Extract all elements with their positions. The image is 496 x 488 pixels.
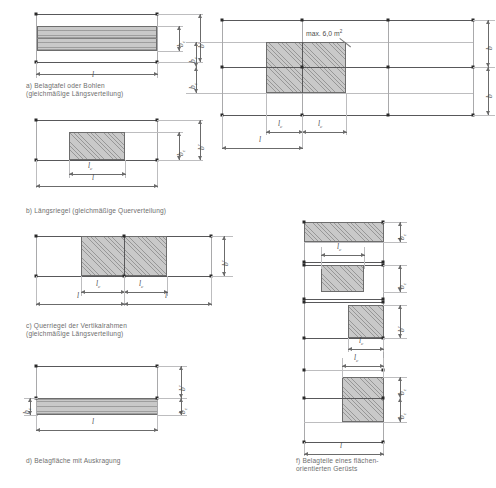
dim-label-lc: lc (88, 161, 92, 171)
witness (383, 377, 407, 378)
panel-e-sec-h2 (186, 93, 474, 94)
dim-label-l: l (92, 70, 94, 79)
witness (157, 160, 203, 161)
witness (157, 415, 187, 416)
panel-a: bc b′ l (36, 14, 196, 78)
panel-c-mid-post-over (124, 236, 125, 276)
panel-f-u3-load (348, 305, 384, 338)
dim-b-prime (196, 120, 203, 160)
panel-a-band-midline (37, 38, 157, 39)
witness (383, 338, 407, 339)
caption-c: c) Querriegel der Vertikalrahmen (gleich… (26, 322, 226, 339)
caption-a: a) Belagtafel oder Bohlen (gleichmäßige … (26, 82, 206, 99)
dim-label-bc: bc (176, 150, 186, 156)
dim-label-bc: bc (176, 41, 186, 47)
dim-lc-left (266, 128, 303, 135)
dim-l-left (36, 300, 125, 307)
max-area-note: max. 6,0 m2 (306, 29, 342, 37)
node (221, 19, 224, 22)
node (303, 397, 306, 400)
node (382, 397, 385, 400)
dim-f-lc-1 (321, 251, 365, 258)
panel-f-u3-top (304, 302, 384, 303)
panel-e-chord-mid (222, 67, 474, 68)
panel-d-cant-right (157, 398, 158, 415)
witness (383, 242, 407, 243)
dim-label-f-lc-1: lc (337, 242, 341, 252)
witness (473, 115, 495, 116)
dim-label-lc-right: lc (139, 279, 143, 289)
witness (211, 276, 233, 277)
dim-label-l: l (259, 135, 261, 144)
node (382, 301, 385, 304)
witness (383, 222, 407, 223)
dim-label-f-bc-1: bc (397, 234, 407, 240)
dim-label-b-prime: b′ (197, 145, 206, 150)
dim-label-bc-lower: bc (188, 83, 198, 89)
panel-e-chord-bottom (222, 115, 474, 116)
node (303, 369, 306, 372)
dim-label-b-lower: b (485, 94, 494, 98)
dim-lc-right (124, 288, 168, 295)
dim-label-l-left: l (77, 291, 79, 300)
node (35, 119, 38, 122)
dim-l (222, 144, 303, 151)
node (301, 66, 304, 69)
dim-label-lc-left: lc (96, 279, 100, 289)
dim-f-l (304, 450, 384, 457)
panel-f-u4-bottom (304, 422, 384, 423)
dim-l-right (124, 300, 212, 307)
dim-label-f-lc-3: lc (354, 353, 358, 363)
panel-a-top-chord (36, 14, 158, 15)
panel-d: b′ bc bc l (36, 366, 206, 442)
caption-d: d) Belagfläche mit Auskragung (26, 457, 226, 465)
caption-b: b) Längsriegel (gleichmäßige Querverteil… (26, 207, 226, 215)
panel-f: bc bc b′ bc bc lc lc (304, 222, 484, 452)
panel-e: max. 6,0 m2 b b bc bc lc lc (222, 20, 487, 170)
dim-b-prime (177, 366, 184, 398)
dim-f-lc-2 (348, 345, 384, 352)
panel-d-left-post (36, 366, 37, 398)
witness (383, 292, 407, 293)
panel-e-chord-mid-over (266, 67, 346, 68)
dim-l (36, 70, 158, 77)
caption-f: f) Belagteile eines flächen- orientierte… (296, 457, 496, 474)
dim-label-f-lc-2: lc (359, 336, 363, 346)
dim-label-b-upper: b (485, 46, 494, 50)
dim-label-lc-left: lc (278, 119, 282, 129)
witness (383, 305, 407, 306)
dim-f-b-prime (396, 305, 403, 338)
panel-f-u1-load (304, 222, 384, 242)
dim-b-lower (484, 67, 491, 115)
dim-label-bc: bc (178, 408, 188, 414)
dim-label-l-right: l (165, 291, 167, 300)
dim-label-bc-upper: bc (188, 57, 198, 63)
panel-c: b′ lc lc l l (36, 236, 226, 312)
dim-label-l: l (92, 417, 94, 426)
dim-l (36, 182, 158, 189)
dim-bc (175, 26, 182, 51)
panel-f-u1-bottom (304, 242, 384, 243)
panel-b-right-post (157, 120, 158, 160)
dim-label-f-l: l (340, 441, 342, 450)
witness (157, 51, 183, 52)
panel-d-right-post (157, 366, 158, 398)
dim-label-f-bc-4: bc (397, 413, 407, 419)
panel-b-top-chord (36, 120, 158, 121)
dim-f-lc-3 (342, 362, 384, 369)
node (301, 19, 304, 22)
node (387, 66, 390, 69)
panel-f-u2-load (321, 265, 364, 292)
dim-label-f-b-prime: b′ (397, 327, 406, 332)
dim-bc-lower (192, 67, 199, 93)
panel-f-u3-bottom (304, 338, 384, 339)
panel-f-u4-load (342, 377, 384, 422)
node (35, 365, 38, 368)
node (387, 114, 390, 117)
node (303, 264, 306, 267)
witness (383, 265, 407, 266)
node (303, 301, 306, 304)
panel-e-chord-top (222, 20, 474, 21)
panel-f-u2-bottom (304, 299, 384, 300)
dim-label-f-bc-2: bc (397, 283, 407, 289)
